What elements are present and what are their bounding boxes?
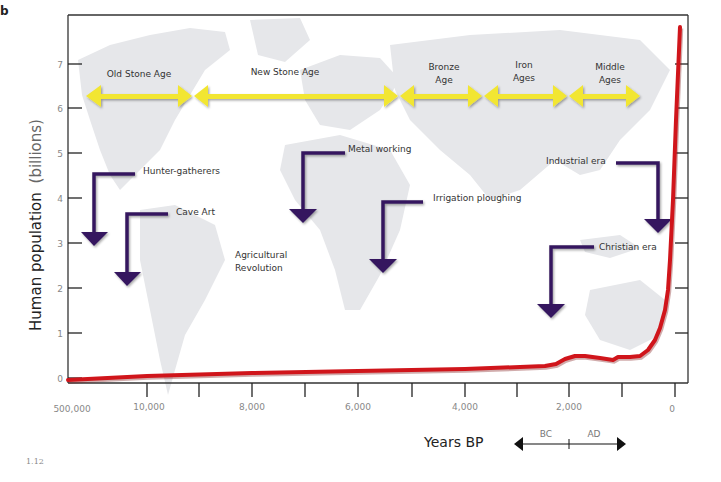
svg-text:0: 0 (669, 404, 675, 414)
svg-text:Bronze: Bronze (428, 62, 460, 72)
svg-text:6: 6 (57, 104, 63, 114)
svg-text:500,000: 500,000 (53, 404, 90, 414)
svg-text:8,000: 8,000 (239, 402, 265, 412)
bc-ad-indicator: BC AD (514, 429, 626, 451)
svg-text:Irrigation ploughing: Irrigation ploughing (433, 193, 521, 203)
svg-text:Revolution: Revolution (235, 263, 283, 273)
svg-text:3: 3 (57, 239, 63, 249)
svg-text:4: 4 (57, 194, 63, 204)
svg-text:2: 2 (57, 284, 63, 294)
svg-text:Ages: Ages (513, 73, 535, 83)
svg-text:AD: AD (587, 429, 600, 439)
svg-text:2,000: 2,000 (556, 402, 582, 412)
x-axis-label: Years BP (423, 434, 483, 450)
svg-text:Hunter-gatherers: Hunter-gatherers (143, 166, 220, 176)
svg-text:New Stone Age: New Stone Age (251, 67, 320, 77)
x-axis-ticks (147, 383, 675, 397)
arrow-down-icon (114, 272, 141, 286)
svg-text:7: 7 (57, 60, 63, 70)
y-axis-tick-labels: 0 1 2 3 4 5 6 7 (57, 60, 63, 384)
y-axis-label: Human population (billions) (27, 119, 45, 331)
svg-text:Agricultural: Agricultural (235, 250, 287, 260)
svg-text:0: 0 (57, 374, 63, 384)
svg-text:10,000: 10,000 (133, 402, 165, 412)
svg-text:1: 1 (57, 329, 63, 339)
svg-text:Cave Art: Cave Art (176, 207, 215, 217)
population-chart: 0 1 2 3 4 5 6 7 Human population (billio… (0, 0, 721, 482)
arrow-down-icon (81, 232, 108, 246)
y-axis-ticks (68, 64, 82, 378)
svg-text:6,000: 6,000 (345, 402, 371, 412)
arrow-left-icon (514, 437, 523, 451)
svg-text:Ages: Ages (599, 75, 621, 85)
svg-text:Human population (billio: Human population (billions) (27, 119, 45, 331)
svg-text:Industrial era: Industrial era (546, 156, 606, 166)
svg-text:Old Stone Age: Old Stone Age (107, 69, 172, 79)
svg-text:Christian era: Christian era (599, 242, 657, 252)
svg-text:Middle: Middle (595, 62, 625, 72)
svg-text:Iron: Iron (515, 60, 532, 70)
svg-text:5: 5 (57, 149, 63, 159)
svg-text:4,000: 4,000 (452, 402, 478, 412)
arrow-left-icon (194, 85, 208, 107)
arrow-down-icon (644, 219, 672, 233)
arrow-down-icon (537, 304, 565, 318)
svg-text:Metal working: Metal working (348, 144, 411, 154)
x-axis-tick-labels: 500,000 10,000 8,000 6,000 4,000 2,000 0 (53, 402, 675, 414)
arrow-right-icon (617, 437, 626, 451)
svg-text:Age: Age (435, 75, 453, 85)
svg-text:BC: BC (540, 429, 552, 439)
